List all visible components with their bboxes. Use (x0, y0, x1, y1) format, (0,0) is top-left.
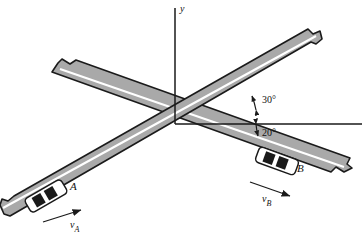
velocity-a-subscript: A (73, 225, 79, 234)
angle-30-arc (252, 96, 256, 110)
car-a-label: A (69, 180, 77, 192)
road-a-center-stripe (3, 36, 316, 208)
velocity-b-vector: vB (250, 182, 290, 208)
velocity-b-subscript: B (266, 199, 271, 208)
velocity-a-vector: vA (43, 210, 81, 234)
velocity-a-label: vA (70, 219, 79, 234)
kinematics-diagram: A B y 30° 20° (0, 0, 362, 234)
velocity-b-label: vB (262, 193, 271, 208)
angle-30-annotation: 30° (252, 94, 276, 110)
velocity-a-arrow (43, 210, 81, 222)
figure-canvas: A B y 30° 20° (0, 0, 362, 234)
angle-30-label: 30° (262, 94, 276, 105)
car-b-label: B (297, 162, 304, 174)
angle-20-label: 20° (262, 127, 276, 138)
y-axis-label: y (179, 3, 185, 14)
velocity-b-arrow (250, 182, 290, 196)
